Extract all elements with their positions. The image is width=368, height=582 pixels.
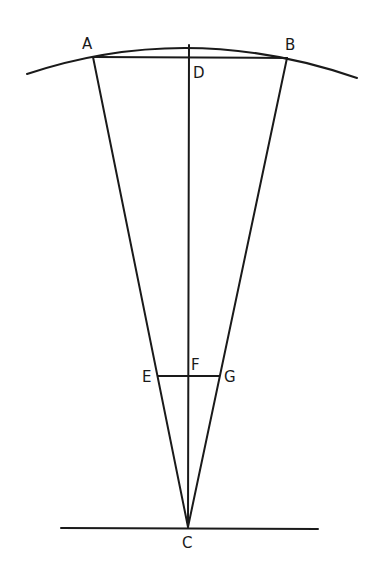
line-bc <box>188 58 287 527</box>
baseline <box>61 528 318 529</box>
chord-ab <box>93 57 287 58</box>
label-a: A <box>82 35 93 53</box>
label-b: B <box>285 36 295 54</box>
line-dc <box>188 45 189 527</box>
label-c: C <box>182 534 192 552</box>
label-d: D <box>193 64 205 82</box>
label-f: F <box>191 356 200 374</box>
arc <box>27 48 357 78</box>
label-e: E <box>142 368 151 386</box>
label-g: G <box>224 368 236 386</box>
line-ac <box>93 57 188 527</box>
geometry-diagram: A B D F E G C <box>0 0 368 582</box>
